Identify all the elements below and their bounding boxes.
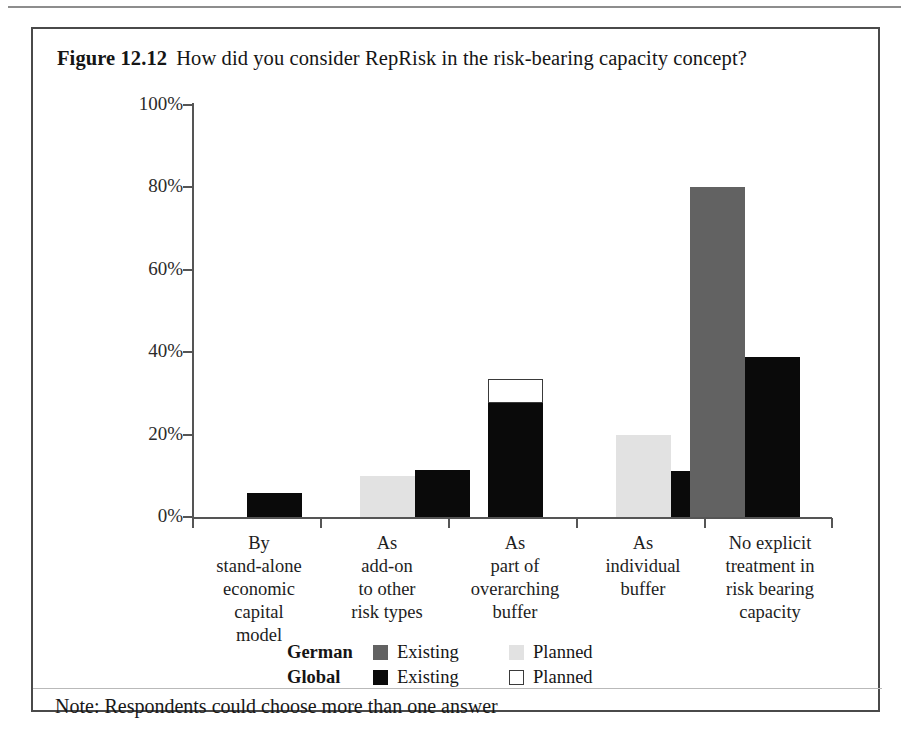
legend-item-german-existing[interactable]: Existing [373,642,509,663]
y-tick-label: 100% [139,93,183,115]
legend-swatch-icon [373,645,388,660]
x-category-line: As [323,532,451,555]
legend-swatch-icon [509,645,524,660]
x-axis-line [192,517,832,519]
y-tick-label: 60% [148,258,183,280]
x-category-line: buffer [579,578,707,601]
bar-global-planned-2[interactable] [488,379,543,403]
x-category-line: to other [323,578,451,601]
x-category-line: overarching [451,578,579,601]
y-tick-mark [183,104,194,106]
x-category-line: individual [579,555,707,578]
x-category-line: No explicit [704,532,836,555]
bar-german-planned-3[interactable] [616,435,671,517]
x-category-line: add-on [323,555,451,578]
x-category-line: risk types [323,601,451,624]
legend-group-label: Global [287,667,373,688]
x-category-label-3: As individual buffer [579,532,707,601]
figure-container: Figure 12.12How did you consider RepRisk… [31,27,880,712]
page-top-rule [8,6,901,8]
x-category-line: economic [195,578,323,601]
bar-german-existing-4[interactable] [690,187,745,517]
x-tick-mark [704,518,706,528]
bar-global-existing-2[interactable] [488,403,543,518]
x-category-line: capacity [704,601,836,624]
chart-legend: German Existing Planned Global Existing [33,640,882,690]
legend-row-german: German Existing Planned [33,640,882,665]
x-category-line: risk bearing [704,578,836,601]
x-category-line: By [195,532,323,555]
chart-plot-area: 0% 20% 40% 60% 80% 100% [33,29,882,714]
x-category-line: As [451,532,579,555]
x-tick-mark [192,518,194,528]
y-tick-label: 80% [148,175,183,197]
x-category-line: part of [451,555,579,578]
y-tick-mark [183,434,194,436]
y-tick-label: 40% [148,340,183,362]
x-tick-mark [831,518,833,528]
legend-item-label: Planned [533,642,593,663]
x-category-line: As [579,532,707,555]
bars-layer [194,105,832,517]
x-tick-mark [576,518,578,528]
legend-swatch-icon [373,670,388,685]
y-tick-label: 0% [158,505,183,527]
y-tick-label: 20% [148,423,183,445]
y-tick-mark [183,351,194,353]
x-category-line: stand-alone [195,555,323,578]
x-category-label-4: No explicit treatment in risk bearing ca… [704,532,836,624]
x-category-line: buffer [451,601,579,624]
bar-german-planned-1[interactable] [360,476,415,517]
note-separator [33,688,882,689]
legend-item-label: Planned [533,667,593,688]
legend-item-german-planned[interactable]: Planned [509,642,593,663]
x-category-line: treatment in [704,555,836,578]
figure-note: Note: Respondents could choose more than… [55,695,498,718]
x-tick-mark [448,518,450,528]
legend-item-global-existing[interactable]: Existing [373,667,509,688]
legend-item-label: Existing [397,667,459,688]
legend-item-global-planned[interactable]: Planned [509,667,593,688]
x-tick-mark [320,518,322,528]
bar-global-existing-1[interactable] [415,470,470,517]
y-tick-mark [183,186,194,188]
bar-global-existing-0[interactable] [247,493,302,517]
x-category-line: capital [195,601,323,624]
legend-row-global: Global Existing Planned [33,665,882,690]
bar-global-existing-4[interactable] [745,357,800,517]
y-tick-mark [183,269,194,271]
legend-item-label: Existing [397,642,459,663]
x-category-label-0: By stand-alone economic capital model [195,532,323,647]
x-category-label-1: As add-on to other risk types [323,532,451,624]
x-category-label-2: As part of overarching buffer [451,532,579,624]
legend-group-label: German [287,642,373,663]
legend-swatch-icon [509,670,524,685]
